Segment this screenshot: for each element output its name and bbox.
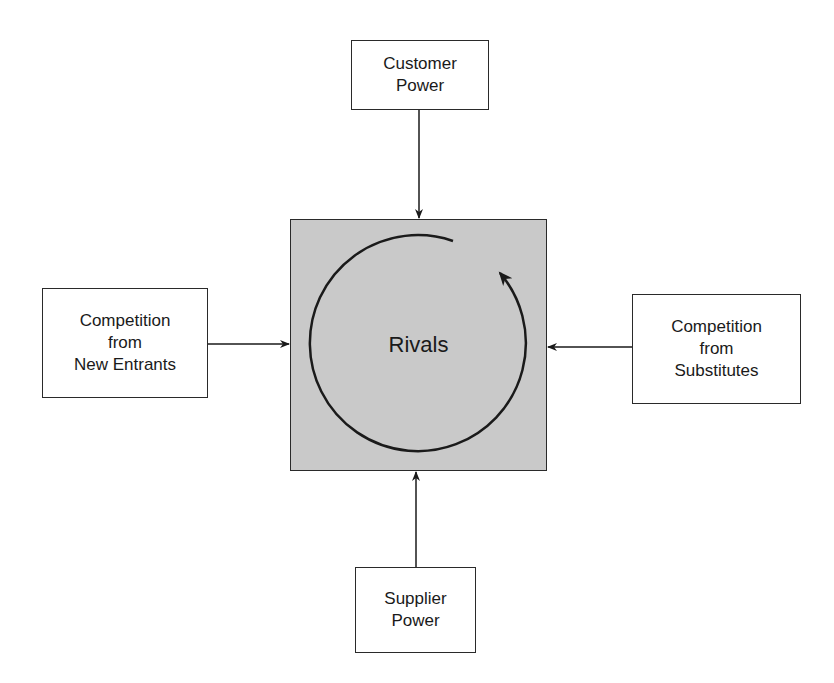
substitutes-box: Competition from Substitutes	[632, 294, 801, 404]
rivalry-cycle-arrow	[310, 235, 526, 451]
substitutes-line-1: Competition	[671, 316, 762, 338]
substitutes-line-2: from	[671, 338, 762, 360]
customer-power-line-2: Power	[383, 75, 457, 97]
customer-power-box: Customer Power	[351, 40, 489, 110]
customer-power-line-1: Customer	[383, 53, 457, 75]
supplier-power-line-2: Power	[384, 610, 446, 632]
new-entrants-line-2: from	[74, 332, 176, 354]
new-entrants-box: Competition from New Entrants	[42, 288, 208, 398]
supplier-power-line-1: Supplier	[384, 588, 446, 610]
supplier-power-box: Supplier Power	[355, 567, 476, 653]
new-entrants-line-3: New Entrants	[74, 354, 176, 376]
substitutes-line-3: Substitutes	[671, 360, 762, 382]
new-entrants-line-1: Competition	[74, 310, 176, 332]
